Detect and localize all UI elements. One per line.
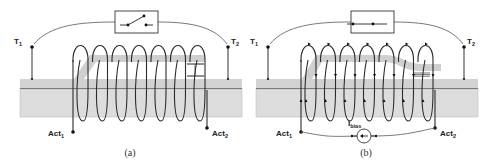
switch-box (115, 11, 158, 33)
switch-node (352, 23, 355, 26)
terminal-right-label: T2 (231, 37, 239, 47)
current-arrow-icon (334, 74, 337, 77)
current-arrow-icon (432, 74, 435, 77)
terminal-left-dot (30, 45, 34, 49)
wire-right (158, 22, 227, 44)
coil-turn-top (418, 46, 433, 63)
terminal-left-anchor (267, 78, 269, 80)
current-arrow-icon (354, 74, 357, 77)
terminal-left-label: T1 (250, 37, 258, 47)
switch-node (143, 15, 146, 18)
terminal-right-anchor (463, 78, 465, 80)
substrate-top-layer (256, 79, 478, 88)
panel-caption: (b) (360, 147, 372, 159)
terminal-right-label: T2 (467, 37, 475, 47)
actuator-left-label: Act1 (48, 129, 64, 139)
actuator-left-label: Act1 (276, 129, 292, 139)
actuator-left-dot (71, 130, 75, 134)
terminal-right-dot (462, 45, 466, 49)
substrate (20, 89, 242, 117)
bias-wire-right (371, 128, 435, 136)
wire-right (394, 22, 463, 44)
actuator-right-dot (205, 126, 209, 130)
substrate (256, 89, 478, 117)
bias-source-label: Ibias (348, 119, 361, 129)
switch-node (372, 23, 375, 26)
mems-switch-diagram: T1T2Act1Act2(a) T1T2Act1Act2Ibias(b) (0, 0, 489, 164)
current-arrow-icon (315, 74, 318, 77)
wire-left (270, 22, 351, 44)
panel-a: T1T2Act1Act2(a) (14, 11, 242, 159)
switch-node (127, 24, 130, 27)
substrate-top-layer (20, 79, 242, 88)
actuator-right-label: Act2 (440, 129, 456, 139)
switch-box (351, 11, 394, 33)
terminal-left-anchor (31, 78, 33, 80)
terminal-left-label: T1 (14, 37, 22, 47)
panel-b: T1T2Act1Act2Ibias(b) (250, 11, 478, 159)
panel-caption: (a) (124, 147, 135, 159)
switch-node (145, 24, 148, 27)
current-arrow-icon (393, 74, 396, 77)
terminal-right-dot (226, 45, 230, 49)
wire-left (34, 22, 115, 44)
coil-turn-top (73, 46, 88, 63)
actuator-right-label: Act2 (212, 129, 228, 139)
bias-wire-left (301, 132, 357, 136)
terminal-left-dot (266, 45, 270, 49)
terminal-right-anchor (227, 78, 229, 80)
movable-beam (302, 55, 441, 79)
current-arrow-icon (373, 74, 376, 77)
